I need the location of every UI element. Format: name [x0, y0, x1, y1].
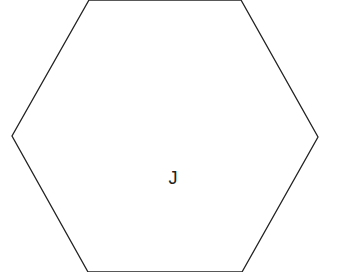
hexagon-shape — [12, 0, 318, 272]
hexagon-label: J — [169, 168, 178, 188]
diagram-canvas: J — [0, 0, 345, 272]
